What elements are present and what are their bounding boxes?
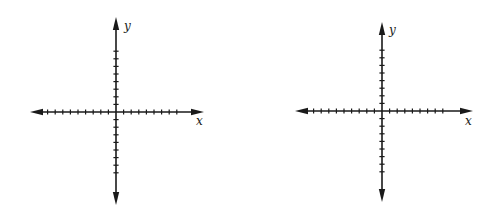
left-x-axis-label: x bbox=[196, 114, 203, 128]
right-axes bbox=[295, 22, 473, 202]
arrow-left-icon bbox=[295, 108, 308, 114]
right-x-axis-label: x bbox=[465, 114, 472, 128]
right-y-axis-label: y bbox=[388, 23, 396, 37]
arrow-down-icon bbox=[113, 192, 119, 205]
arrow-up-icon bbox=[113, 17, 119, 30]
right-coordinate-plane: x y bbox=[295, 22, 473, 202]
arrow-down-icon bbox=[379, 189, 385, 202]
arrow-left-icon bbox=[30, 109, 43, 115]
coordinate-planes-figure: x y x y bbox=[0, 0, 498, 218]
left-coordinate-plane: x y bbox=[30, 17, 204, 205]
arrow-up-icon bbox=[379, 22, 385, 35]
left-y-axis-label: y bbox=[123, 19, 131, 33]
left-axes bbox=[30, 17, 204, 205]
